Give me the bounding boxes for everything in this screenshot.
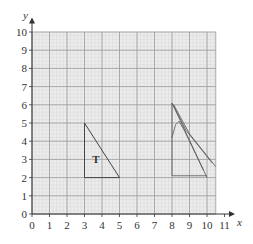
x-tick-label: 1 (47, 219, 53, 231)
y-tick-label: 1 (22, 190, 28, 202)
x-tick-label: 6 (134, 219, 140, 231)
x-tick-label: 10 (202, 219, 214, 231)
x-axis-arrow-icon (229, 211, 235, 217)
triangle-T-label: T (92, 153, 100, 165)
y-axis-title: y (22, 9, 28, 21)
y-tick-label: 6 (22, 99, 28, 111)
y-tick-label: 10 (16, 26, 28, 38)
y-tick-label: 0 (22, 208, 28, 220)
y-tick-label: 7 (22, 81, 28, 93)
x-tick-label: 0 (29, 219, 35, 231)
coordinate-grid-figure: 01234567891011012345678910xyT (0, 0, 253, 244)
y-tick-label: 5 (22, 117, 28, 129)
y-tick-label: 3 (22, 153, 28, 165)
x-tick-label: 5 (117, 219, 123, 231)
x-tick-label: 4 (99, 219, 105, 231)
x-tick-label: 11 (219, 219, 230, 231)
x-tick-label: 7 (152, 219, 158, 231)
x-tick-label: 9 (187, 219, 193, 231)
y-tick-label: 4 (22, 135, 28, 147)
y-tick-label: 2 (22, 172, 28, 184)
y-tick-label: 8 (22, 62, 28, 74)
y-axis-arrow-icon (29, 17, 35, 23)
x-axis-title: x (236, 216, 242, 228)
x-tick-label: 2 (64, 219, 70, 231)
y-tick-label: 9 (22, 44, 28, 56)
x-tick-label: 8 (169, 219, 175, 231)
x-tick-label: 3 (82, 219, 88, 231)
